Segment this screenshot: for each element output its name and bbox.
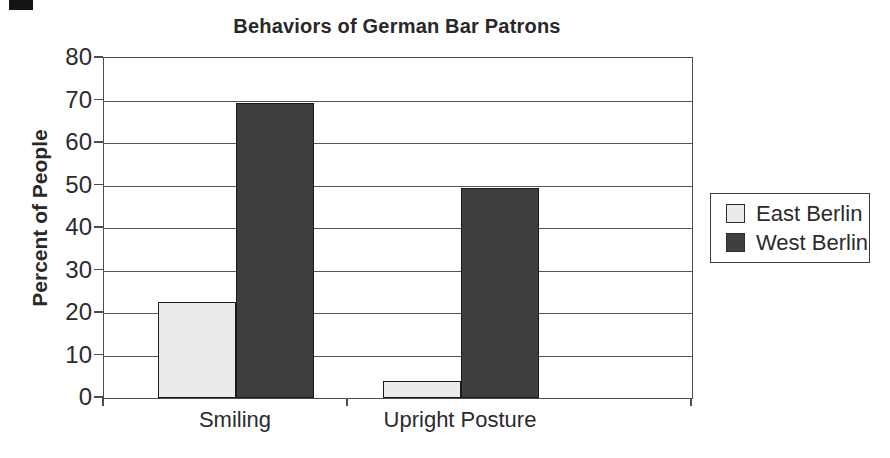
gridline-30 — [104, 271, 692, 272]
y-axis-tick-60 — [94, 141, 103, 142]
gridline-70 — [104, 101, 692, 102]
y-tick-label-80: 80 — [28, 44, 92, 70]
y-axis-tick-30 — [94, 269, 103, 270]
plot-area — [103, 57, 693, 399]
y-axis-tick-10 — [94, 354, 103, 355]
legend-item-east-berlin: East Berlin — [726, 203, 869, 225]
y-axis-tick-20 — [94, 311, 103, 312]
legend-item-west-berlin: West Berlin — [726, 232, 869, 254]
gridline-40 — [104, 228, 692, 229]
chart-figure: Behaviors of German Bar Patrons Percent … — [0, 0, 890, 458]
y-tick-label-30: 30 — [28, 257, 92, 283]
x-axis-tick-2 — [690, 398, 691, 406]
chart-title: Behaviors of German Bar Patrons — [103, 15, 691, 38]
x-axis-tick-1 — [346, 398, 347, 406]
legend-label-west-berlin: West Berlin — [756, 232, 868, 254]
x-axis-tick-0 — [102, 398, 103, 406]
bar-west-berlin-smiling — [236, 103, 314, 398]
y-tick-label-50: 50 — [28, 172, 92, 198]
y-tick-label-10: 10 — [28, 342, 92, 368]
gridline-50 — [104, 186, 692, 187]
y-tick-label-70: 70 — [28, 87, 92, 113]
y-axis-tick-80 — [94, 56, 103, 57]
bar-east-berlin-smiling — [158, 302, 236, 398]
bar-west-berlin-upright-posture — [461, 188, 539, 398]
legend: East Berlin West Berlin — [710, 193, 870, 263]
y-tick-label-0: 0 — [28, 384, 92, 410]
gridline-60 — [104, 143, 692, 144]
y-tick-label-40: 40 — [28, 214, 92, 240]
y-axis-tick-40 — [94, 226, 103, 227]
legend-label-east-berlin: East Berlin — [756, 203, 862, 225]
x-category-label-upright-posture: Upright Posture — [350, 407, 570, 433]
bar-east-berlin-upright-posture — [383, 381, 461, 398]
y-axis-tick-50 — [94, 184, 103, 185]
scan-artifact-mark — [9, 0, 33, 10]
y-tick-label-20: 20 — [28, 299, 92, 325]
legend-swatch-west-berlin — [726, 233, 745, 252]
y-axis-tick-70 — [94, 99, 103, 100]
x-category-label-smiling: Smiling — [125, 407, 345, 433]
legend-swatch-east-berlin — [726, 204, 745, 223]
y-tick-label-60: 60 — [28, 129, 92, 155]
